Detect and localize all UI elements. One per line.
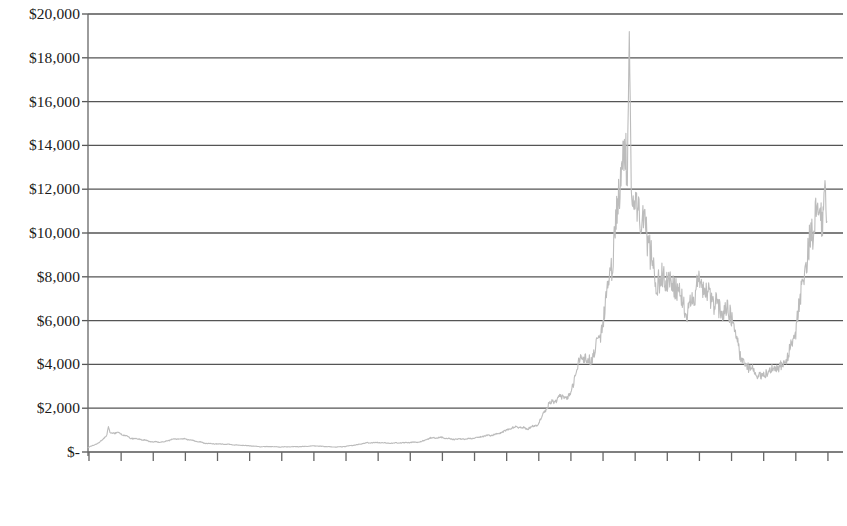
chart-canvas	[0, 0, 847, 526]
data-series-line	[88, 32, 827, 448]
gridlines	[82, 14, 843, 452]
price-line	[88, 32, 827, 448]
x-axis-tick-labels: Oct-13Jan-14Apr-14Jul-14Oct-14Jan-15Apr-…	[88, 458, 843, 526]
price-history-chart: $20,000$18,000$16,000$14,000$12,000$10,0…	[0, 0, 847, 526]
